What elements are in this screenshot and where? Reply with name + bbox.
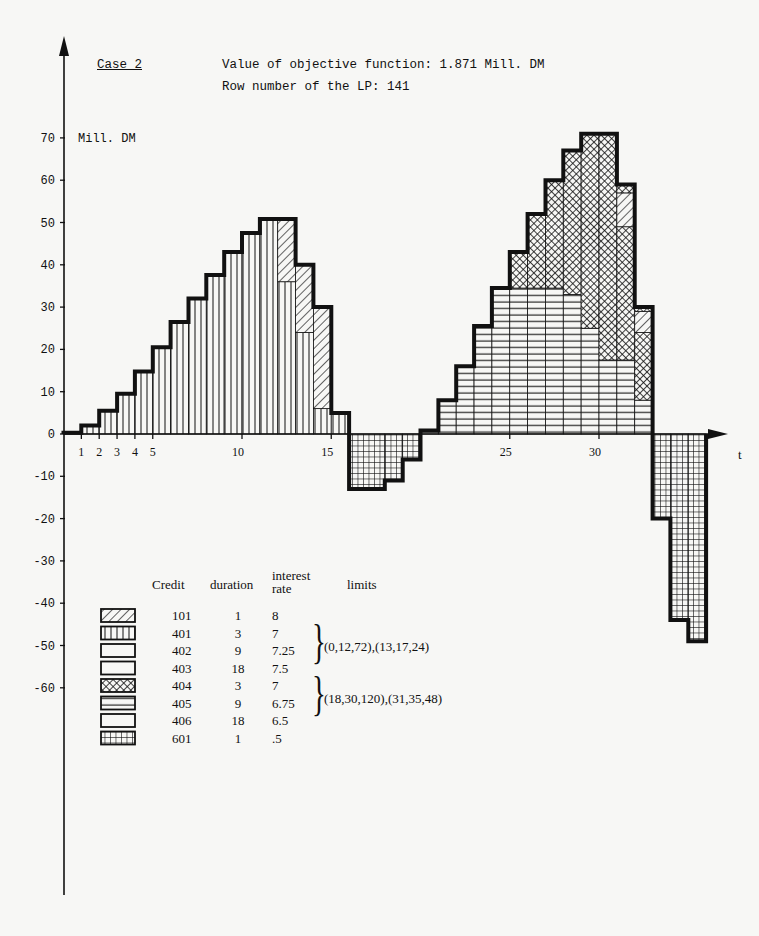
bar-segment-601 <box>653 434 671 519</box>
legend-credit: 601 <box>172 731 192 747</box>
legend-row-601: 6011.5 <box>100 731 500 748</box>
bar-segment-401 <box>206 275 224 434</box>
legend-duration: 3 <box>228 678 248 694</box>
bar-segment-405 <box>599 360 617 434</box>
y-tick-label: -30 <box>33 555 55 569</box>
legend-rate: 8 <box>272 608 279 624</box>
legend-row-402: 40297.25 <box>100 643 500 660</box>
bar-segment-401 <box>260 219 278 434</box>
objective-value: Value of objective function: 1.871 Mill.… <box>222 58 545 72</box>
legend-header-credit: Credit <box>152 577 185 593</box>
legend-rate: 7.5 <box>272 661 288 677</box>
bar-segment-401 <box>171 322 189 434</box>
bar-segment-401 <box>188 299 206 434</box>
bar-segment-404 <box>635 332 653 400</box>
x-tick-label: 10 <box>232 445 244 459</box>
limits-group1: (0,12,72),(13,17,24) <box>324 639 429 655</box>
lp-row-number: Row number of the LP: 141 <box>222 80 410 94</box>
legend-credit: 404 <box>172 678 192 694</box>
bar-segment-601 <box>385 434 403 481</box>
limits-group2: (18,30,120),(31,35,48) <box>324 691 442 707</box>
legend-duration: 9 <box>228 696 248 712</box>
x-tick-label: 25 <box>500 445 512 459</box>
bar-segment-101 <box>278 219 296 282</box>
y-tick-label: -40 <box>33 597 55 611</box>
bar-segment-404 <box>581 134 599 329</box>
bar-segment-601 <box>349 434 385 489</box>
x-tick-label: 2 <box>96 445 102 459</box>
legend-rate: 6.5 <box>272 713 288 729</box>
bar-segment-101 <box>313 307 331 409</box>
x-tick-label: 3 <box>114 445 120 459</box>
bar-segment-405 <box>563 294 581 434</box>
legend-duration: 18 <box>228 661 248 677</box>
bar-segment-405 <box>528 288 546 434</box>
bar-segment-405 <box>617 360 635 434</box>
bar-segment-405 <box>456 366 474 434</box>
bar-segment-401 <box>117 394 135 434</box>
legend-row-406: 406186.5 <box>100 713 500 730</box>
legend-credit: 401 <box>172 626 192 642</box>
bar-segment-401 <box>224 252 242 434</box>
legend-header-limits: limits <box>347 577 377 593</box>
bar-segment-401 <box>99 411 117 434</box>
bar-segment-601 <box>403 434 421 459</box>
bar-segment-101 <box>635 311 653 332</box>
bar-segment-404 <box>545 180 563 288</box>
y-tick-label: 60 <box>41 174 55 188</box>
bar-segment-401 <box>278 282 296 434</box>
legend-duration: 1 <box>228 608 248 624</box>
bar-segment-401 <box>242 233 260 434</box>
y-tick-label: -20 <box>33 513 55 527</box>
y-tick-label: -10 <box>33 470 55 484</box>
chart-bars <box>64 134 707 642</box>
bar-segment-404 <box>510 252 528 288</box>
bar-segment-401 <box>296 332 314 434</box>
legend-rate: 7.25 <box>272 643 295 659</box>
bar-segment-405 <box>474 326 492 434</box>
x-tick-label: 4 <box>132 445 138 459</box>
legend-duration: 1 <box>228 731 248 747</box>
legend-row-401: 40137 <box>100 626 500 643</box>
y-tick-label: 50 <box>41 217 55 231</box>
y-tick-label: 0 <box>48 428 55 442</box>
y-tick-label: 20 <box>41 343 55 357</box>
legend-credit: 406 <box>172 713 192 729</box>
legend-rate: 7 <box>272 678 279 694</box>
legend-header-duration: duration <box>210 577 253 593</box>
x-tick-label: 15 <box>321 445 333 459</box>
x-axis-label: t <box>738 447 742 462</box>
bar-segment-405 <box>438 400 456 434</box>
y-tick-label: -50 <box>33 640 55 654</box>
bar-segment-401 <box>331 413 349 434</box>
legend-duration: 3 <box>228 626 248 642</box>
bar-segment-405 <box>492 288 510 434</box>
x-tick-label: 30 <box>589 445 601 459</box>
bar-segment-404 <box>563 151 581 295</box>
legend-rate: .5 <box>272 731 282 747</box>
legend-rate: 7 <box>272 626 279 642</box>
legend-duration: 18 <box>228 713 248 729</box>
bar-segment-401 <box>313 409 331 434</box>
y-axis-label: Mill. DM <box>78 132 136 146</box>
legend-row-403: 403187.5 <box>100 661 500 678</box>
bar-segment-405 <box>581 328 599 434</box>
legend-rate: 6.75 <box>272 696 295 712</box>
legend-credit: 405 <box>172 696 192 712</box>
legend-credit: 403 <box>172 661 192 677</box>
x-tick-label: 5 <box>150 445 156 459</box>
bar-segment-404 <box>528 214 546 288</box>
bar-segment-405 <box>635 400 653 434</box>
y-tick-label: 10 <box>41 386 55 400</box>
bar-segment-601 <box>688 434 706 641</box>
y-tick-label: 30 <box>41 301 55 315</box>
x-tick-label: 1 <box>78 445 84 459</box>
bar-segment-401 <box>135 371 153 434</box>
bar-segment-405 <box>545 288 563 434</box>
legend-credit: 101 <box>172 608 192 624</box>
case-label: Case 2 <box>97 58 142 72</box>
bar-segment-101 <box>617 193 635 227</box>
legend-row-101: 10118 <box>100 608 500 625</box>
bar-segment-101 <box>296 265 314 333</box>
y-tick-label: -60 <box>33 682 55 696</box>
